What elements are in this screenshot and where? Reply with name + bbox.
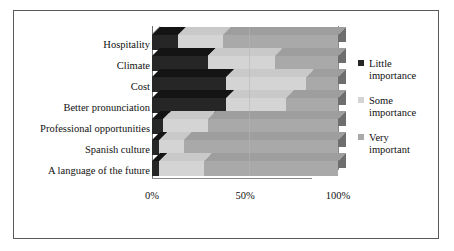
stacked-bar	[152, 161, 338, 176]
bar-segment-top-face	[226, 90, 294, 98]
bar-segment-top-face	[152, 69, 234, 77]
bar-segment-top-face	[178, 27, 231, 35]
value-axis-ticks: 0%50%100%	[120, 190, 360, 206]
gridline	[249, 28, 250, 176]
stacked-bar	[152, 98, 338, 113]
axis-tick-label: 100%	[318, 190, 358, 201]
axis-tick-label: 0%	[132, 190, 172, 201]
bar-segment-top-face	[152, 48, 216, 56]
very-important-swatch	[358, 134, 364, 140]
bar-segment-top-face	[152, 90, 234, 98]
bar-segment	[152, 161, 159, 176]
axis-tick-label: 50%	[225, 190, 265, 201]
category-label: Better pronunciation	[18, 102, 150, 113]
bar-segment	[208, 56, 275, 71]
bar-segment-top-face	[223, 27, 346, 35]
plot-area	[152, 26, 348, 186]
legend-label-line1: Very	[369, 132, 436, 144]
stacked-bar	[152, 35, 338, 50]
little-importance-swatch	[358, 60, 364, 66]
legend-label-line1: Little	[369, 58, 436, 70]
chart-legend: LittleimportanceSomeimportanceVeryimport…	[358, 58, 436, 169]
bar-segment	[159, 161, 204, 176]
bar-segment	[226, 98, 286, 113]
stacked-bar	[152, 140, 338, 155]
bar-segment	[306, 77, 338, 92]
bar-segment	[223, 35, 338, 50]
bar-segment	[184, 140, 338, 155]
bar-segment	[208, 119, 338, 134]
stacked-bar	[152, 119, 338, 134]
bar-segment-top-face	[208, 48, 283, 56]
stacked-bar	[152, 56, 338, 71]
bar-segment	[275, 56, 338, 71]
bar-segment	[152, 98, 226, 113]
bar-segment-top-face	[184, 132, 346, 140]
bar-segment-top-face	[163, 111, 216, 119]
chart-figure: HospitalityClimateCostBetter pronunciati…	[0, 0, 454, 251]
legend-label-line2: important	[369, 144, 436, 156]
legend-label-line2: importance	[369, 70, 436, 82]
bar-segment	[152, 140, 159, 155]
category-label: Climate	[18, 60, 150, 71]
bar-segment-top-face	[226, 69, 314, 77]
some-importance-swatch	[358, 97, 364, 103]
bar-segment	[152, 56, 208, 71]
bar-segment	[152, 35, 178, 50]
bar-segment-top-face	[204, 153, 346, 161]
category-label: Professional opportunities	[18, 123, 150, 134]
bar-segment	[159, 140, 183, 155]
category-label: Spanish culture	[18, 144, 150, 155]
bar-segment	[204, 161, 338, 176]
bar-segment-top-face	[286, 90, 346, 98]
legend-label-line2: importance	[369, 107, 436, 119]
bar-segment	[286, 98, 338, 113]
bar-segment	[178, 35, 223, 50]
category-label: Hospitality	[18, 39, 150, 50]
stacked-bar	[152, 77, 338, 92]
legend-label-line1: Some	[369, 95, 436, 107]
bar-segment	[152, 119, 163, 134]
bar-segment-top-face	[208, 111, 346, 119]
legend-item[interactable]: Veryimportant	[358, 132, 436, 155]
bar-segment-top-face	[275, 48, 346, 56]
bar-segment	[163, 119, 208, 134]
bar-segment-top-face	[159, 153, 212, 161]
category-axis-labels: HospitalityClimateCostBetter pronunciati…	[18, 28, 150, 178]
category-label: A language of the future	[18, 165, 150, 176]
bar-segment	[226, 77, 306, 92]
plot-floor-front-edge	[152, 178, 312, 179]
category-label: Cost	[18, 81, 150, 92]
legend-item[interactable]: Someimportance	[358, 95, 436, 118]
legend-item[interactable]: Littleimportance	[358, 58, 436, 81]
bar-segment	[152, 77, 226, 92]
